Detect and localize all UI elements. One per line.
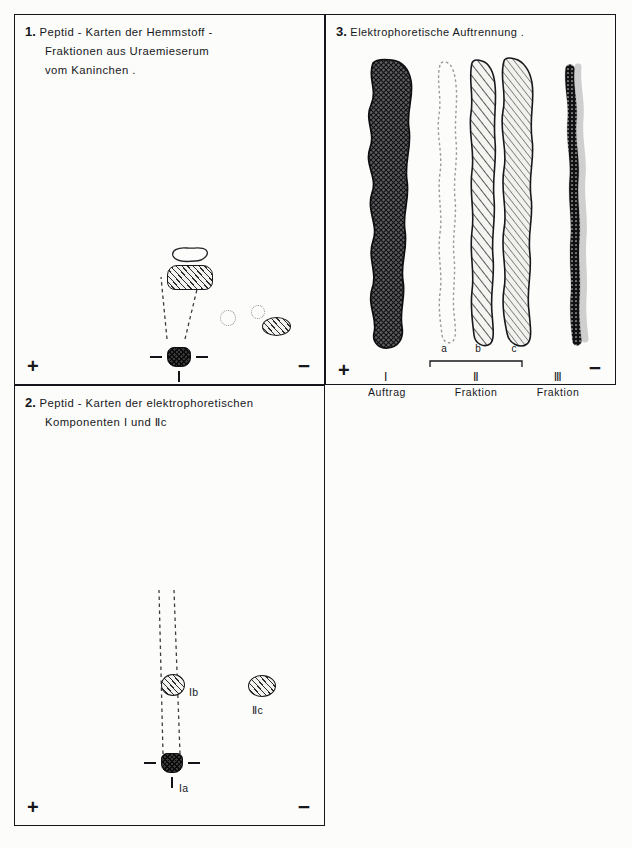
panel-1-origin-tick-bottom	[178, 371, 180, 382]
panel-2-map-area: Ib Ⅱc Ia	[15, 386, 324, 825]
band-III-outline	[570, 69, 577, 341]
panel-2-polarity-plus: +	[27, 797, 39, 817]
panel-2-spot-IIc-label: Ⅱc	[252, 704, 263, 716]
figure-sheet: 1. Peptid - Karten der Hemmstoff - Frakt…	[0, 0, 632, 848]
panel-3-polarity-plus: +	[338, 360, 350, 380]
panel-1-spot-main	[167, 265, 213, 290]
panel-2-spot-IIc	[248, 675, 276, 697]
panel-2-polarity-minus: −	[298, 796, 310, 817]
panel-1-spot-origin	[167, 347, 191, 367]
lane-caption-II: Fraktion	[441, 386, 511, 398]
panel-2-origin-tick-left	[144, 762, 156, 764]
panel-3-bands-area	[326, 15, 617, 386]
lane-caption-I: Auftrag	[352, 386, 422, 398]
panel-2-spot-Ia	[161, 753, 183, 773]
panel-3-bracket	[430, 361, 522, 367]
panel-1-origin-tick-right	[196, 356, 208, 358]
lane-roman-III: Ⅲ	[538, 370, 578, 384]
band-I	[368, 59, 411, 348]
panel-3-electrophoresis: 3. Elektrophoretische Auftrennung .	[325, 14, 616, 385]
panel-1-peptide-maps: 1. Peptid - Karten der Hemmstoff - Frakt…	[14, 14, 325, 385]
panel-2-spot-Ib	[161, 674, 185, 696]
panel-1-origin-tick-left	[150, 356, 162, 358]
panel-1-spot-right	[262, 317, 291, 336]
band-IIc	[502, 58, 533, 346]
panel-1-polarity-minus: −	[298, 355, 310, 376]
band-IIb	[470, 60, 495, 346]
panel-1-map-area	[15, 15, 324, 384]
panel-2-origin-tick-right	[188, 762, 200, 764]
panel-2-origin-tick-bottom	[171, 777, 173, 788]
panel-2-spot-Ia-label: Ia	[179, 782, 189, 794]
panel-1-spot-ghost-1	[220, 310, 236, 326]
band-sublabel-c: c	[506, 343, 522, 354]
band-sublabel-b: b	[470, 343, 486, 354]
panel-1-spot-blob	[167, 245, 211, 265]
band-sublabel-a: a	[436, 343, 452, 354]
panel-1-spot-ghost-2	[251, 305, 265, 319]
panel-3-polarity-minus: −	[589, 357, 601, 378]
panel-2-spot-Ib-label: Ib	[189, 686, 199, 698]
lane-caption-III: Fraktion	[523, 386, 593, 398]
lane-roman-II: Ⅱ	[456, 370, 496, 384]
band-IIa	[438, 62, 456, 343]
panel-2-peptide-maps-components: 2. Peptid - Karten der elektrophoretisch…	[14, 385, 325, 826]
panel-1-polarity-plus: +	[27, 356, 39, 376]
lane-roman-I: Ⅰ	[366, 370, 406, 384]
